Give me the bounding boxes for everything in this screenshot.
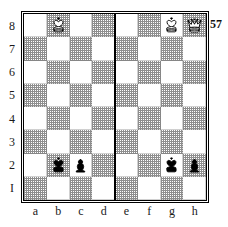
square-d6[interactable]: [92, 61, 115, 84]
square-c3[interactable]: [70, 130, 93, 153]
center-divider-line: [114, 14, 116, 200]
file-label-h: h: [183, 202, 206, 220]
square-f6[interactable]: [138, 61, 161, 84]
file-label-d: d: [92, 202, 115, 220]
square-e7[interactable]: [115, 37, 138, 60]
square-a2[interactable]: [24, 154, 47, 177]
file-label-g: g: [161, 202, 184, 220]
square-d1[interactable]: [92, 177, 115, 200]
square-b7[interactable]: [47, 37, 70, 60]
square-h4[interactable]: [183, 107, 206, 130]
square-f3[interactable]: [138, 130, 161, 153]
square-g3[interactable]: [161, 130, 184, 153]
square-c1[interactable]: [70, 177, 93, 200]
square-f5[interactable]: [138, 84, 161, 107]
square-e6[interactable]: [115, 61, 138, 84]
rank-label-7: 7: [2, 37, 22, 60]
square-d4[interactable]: [92, 107, 115, 130]
square-b4[interactable]: [47, 107, 70, 130]
square-a1[interactable]: [24, 177, 47, 200]
square-c6[interactable]: [70, 61, 93, 84]
square-a7[interactable]: [24, 37, 47, 60]
square-e8[interactable]: [115, 14, 138, 37]
square-g2[interactable]: [161, 154, 184, 177]
square-d3[interactable]: [92, 130, 115, 153]
square-e2[interactable]: [115, 154, 138, 177]
square-d2[interactable]: [92, 154, 115, 177]
square-a5[interactable]: [24, 84, 47, 107]
square-b2[interactable]: [47, 154, 70, 177]
square-f7[interactable]: [138, 37, 161, 60]
square-c2[interactable]: [70, 154, 93, 177]
file-label-e: e: [115, 202, 138, 220]
square-c4[interactable]: [70, 107, 93, 130]
piece-white-queen-h8[interactable]: [185, 16, 204, 35]
piece-black-king-g2[interactable]: [162, 156, 181, 175]
file-label-f: f: [138, 202, 161, 220]
file-label-a: a: [24, 202, 47, 220]
square-h3[interactable]: [183, 130, 206, 153]
square-d5[interactable]: [92, 84, 115, 107]
chess-diagram: 8765432I abcdefgh 57: [0, 0, 228, 227]
square-a6[interactable]: [24, 61, 47, 84]
diagram-number: 57: [210, 18, 228, 30]
square-h5[interactable]: [183, 84, 206, 107]
square-h1[interactable]: [183, 177, 206, 200]
square-e1[interactable]: [115, 177, 138, 200]
square-a4[interactable]: [24, 107, 47, 130]
square-c5[interactable]: [70, 84, 93, 107]
square-f1[interactable]: [138, 177, 161, 200]
square-a3[interactable]: [24, 130, 47, 153]
square-d8[interactable]: [92, 14, 115, 37]
square-e5[interactable]: [115, 84, 138, 107]
rank-label-8: 8: [2, 14, 22, 37]
square-e3[interactable]: [115, 130, 138, 153]
square-g6[interactable]: [161, 61, 184, 84]
square-b3[interactable]: [47, 130, 70, 153]
piece-white-king-g8[interactable]: [162, 16, 181, 35]
square-b6[interactable]: [47, 61, 70, 84]
square-f2[interactable]: [138, 154, 161, 177]
rank-labels: 8765432I: [2, 14, 22, 200]
rank-label-I: I: [2, 177, 22, 200]
rank-label-3: 3: [2, 130, 22, 153]
square-c8[interactable]: [70, 14, 93, 37]
square-e4[interactable]: [115, 107, 138, 130]
file-labels: abcdefgh: [24, 202, 206, 220]
square-h6[interactable]: [183, 61, 206, 84]
square-b5[interactable]: [47, 84, 70, 107]
square-g4[interactable]: [161, 107, 184, 130]
square-b1[interactable]: [47, 177, 70, 200]
file-label-b: b: [47, 202, 70, 220]
square-h2[interactable]: [183, 154, 206, 177]
square-g7[interactable]: [161, 37, 184, 60]
square-g5[interactable]: [161, 84, 184, 107]
square-h7[interactable]: [183, 37, 206, 60]
square-g8[interactable]: [161, 14, 184, 37]
square-a8[interactable]: [24, 14, 47, 37]
square-f4[interactable]: [138, 107, 161, 130]
file-label-c: c: [70, 202, 93, 220]
piece-black-king-b2[interactable]: [49, 156, 68, 175]
square-h8[interactable]: [183, 14, 206, 37]
piece-white-king-b8[interactable]: [49, 16, 68, 35]
square-g1[interactable]: [161, 177, 184, 200]
square-c7[interactable]: [70, 37, 93, 60]
square-f8[interactable]: [138, 14, 161, 37]
piece-black-pawn-h2[interactable]: [185, 156, 204, 175]
rank-label-4: 4: [2, 107, 22, 130]
square-b8[interactable]: [47, 14, 70, 37]
rank-label-2: 2: [2, 154, 22, 177]
piece-black-pawn-c2[interactable]: [71, 156, 90, 175]
rank-label-5: 5: [2, 84, 22, 107]
square-d7[interactable]: [92, 37, 115, 60]
rank-label-6: 6: [2, 61, 22, 84]
